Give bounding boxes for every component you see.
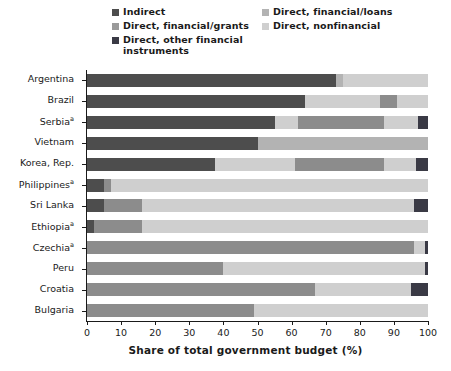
bar-segment [87, 137, 258, 150]
x-axis-tick-label: 60 [286, 327, 298, 338]
bar-row [87, 283, 428, 296]
bar-segment [87, 74, 336, 87]
bar-segment [215, 158, 295, 171]
x-axis-tick [223, 321, 224, 325]
y-axis-tick [82, 227, 86, 228]
bar-row [87, 179, 428, 192]
y-axis-label: Ethiopiaa [0, 220, 74, 232]
y-axis-tick [82, 122, 86, 123]
x-axis-tick [258, 321, 259, 325]
y-axis-label: Peru [0, 262, 74, 273]
bar-segment [416, 158, 428, 171]
bar-row [87, 220, 428, 233]
y-axis-label: Sri Lanka [0, 199, 74, 210]
x-axis-tick-label: 50 [251, 327, 263, 338]
bar-segment [223, 262, 424, 275]
y-axis-label: Argentina [0, 73, 74, 84]
bar-row [87, 74, 428, 87]
x-axis-tick-label: 0 [84, 327, 90, 338]
bar-segment [295, 158, 384, 171]
y-axis-labels: ArgentinaBrazilSerbiaaVietnamKorea, Rep.… [0, 70, 80, 321]
bar-segment [94, 220, 142, 233]
bar-segment [142, 220, 428, 233]
legend-item-direct-financial-grants: Direct, financial/grants [112, 20, 262, 31]
bar-segment [87, 304, 254, 317]
x-axis-tick-label: 10 [115, 327, 127, 338]
y-axis-tick [82, 164, 86, 165]
plot-area [87, 70, 428, 321]
legend-row-3: Direct, other financial instruments [112, 34, 442, 56]
legend-swatch-icon [112, 9, 119, 16]
bar-segment [87, 95, 305, 108]
bar-segment [254, 304, 428, 317]
bar-segment [275, 116, 299, 129]
legend-label: Direct, nonfinancial [273, 20, 380, 31]
chart-legend: Indirect Direct, financial/loans Direct,… [112, 6, 442, 62]
bar-row [87, 116, 428, 129]
bar-row [87, 241, 428, 254]
legend-row-2: Direct, financial/grants Direct, nonfina… [112, 20, 442, 31]
bar-row [87, 158, 428, 171]
bar-segment [397, 95, 428, 108]
legend-item-direct-financial-loans: Direct, financial/loans [262, 6, 393, 17]
bar-row [87, 95, 428, 108]
bar-segment [425, 241, 428, 254]
y-axis-tick [82, 143, 86, 144]
bar-segment [87, 220, 94, 233]
x-axis-tick [189, 321, 190, 325]
legend-item-indirect: Indirect [112, 6, 262, 17]
bar-segment [87, 158, 215, 171]
x-axis-tick-label: 80 [354, 327, 366, 338]
y-axis-tick [82, 311, 86, 312]
x-axis-title: Share of total government budget (%) [0, 344, 451, 356]
bar-segment [142, 199, 415, 212]
y-axis-tick [82, 185, 86, 186]
bar-segment [418, 116, 428, 129]
x-axis-tick-label: 90 [388, 327, 400, 338]
bar-row [87, 137, 428, 150]
y-axis-tick [82, 248, 86, 249]
x-axis-title-text: Share of total government budget (%) [129, 344, 363, 356]
bar-segment [104, 199, 142, 212]
y-axis-label: Vietnam [0, 136, 74, 147]
y-axis-tick [82, 101, 86, 102]
x-axis-tick [87, 321, 88, 325]
y-axis-label: Croatia [0, 283, 74, 294]
legend-swatch-icon [112, 23, 119, 30]
legend-row-1: Indirect Direct, financial/loans [112, 6, 442, 17]
bar-segment [87, 116, 275, 129]
x-axis-tick [360, 321, 361, 325]
bar-segment [87, 283, 315, 296]
bar-segment [414, 241, 424, 254]
x-axis-tick-label: 40 [217, 327, 229, 338]
bar-segment [414, 199, 428, 212]
bar-segment [258, 137, 429, 150]
y-axis-label: Serbiaa [0, 115, 74, 127]
bar-segment [384, 158, 416, 171]
y-axis-label: Czechiaa [0, 241, 74, 253]
x-axis-tick [155, 321, 156, 325]
y-axis-label: Philippinesa [0, 178, 74, 190]
bar-segment [298, 116, 383, 129]
bar-segment [87, 241, 414, 254]
y-axis-label: Korea, Rep. [0, 157, 74, 168]
bar-segment [305, 95, 380, 108]
x-axis-tick [292, 321, 293, 325]
legend-label: Direct, financial/loans [273, 6, 393, 17]
bar-segment [411, 283, 428, 296]
y-axis-label: Bulgaria [0, 304, 74, 315]
x-axis-tick [428, 321, 429, 325]
x-axis-tick-label: 30 [183, 327, 195, 338]
stacked-bar-chart: Indirect Direct, financial/loans Direct,… [0, 0, 451, 371]
y-axis-tick [82, 80, 86, 81]
y-axis-tick [82, 206, 86, 207]
legend-swatch-icon [262, 23, 269, 30]
legend-label: Indirect [123, 6, 165, 17]
x-axis-tick-label: 20 [149, 327, 161, 338]
bar-segment [380, 95, 397, 108]
x-axis-tick [121, 321, 122, 325]
bar-segment [87, 179, 104, 192]
bar-segment [336, 74, 343, 87]
x-axis-tick-label: 100 [419, 327, 437, 338]
bar-row [87, 304, 428, 317]
